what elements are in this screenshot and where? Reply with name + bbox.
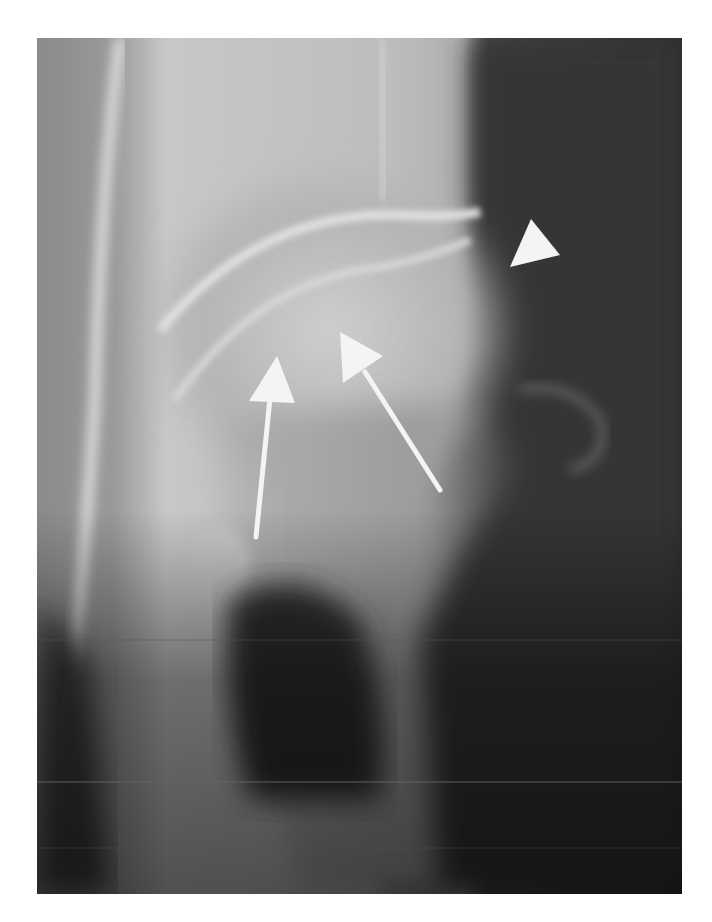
bottom-vignette	[37, 38, 682, 894]
xray-scene	[37, 38, 682, 894]
radiograph-image	[37, 38, 682, 894]
